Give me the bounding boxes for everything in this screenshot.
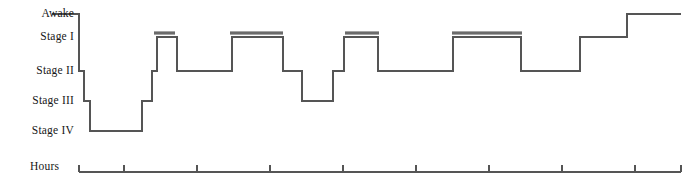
- rem-period-bars: [154, 31, 522, 34]
- y-axis-label-stage-2: Stage II: [36, 65, 74, 77]
- hypnogram-plot: [0, 0, 687, 188]
- rem-bar-3: [345, 31, 379, 34]
- rem-bar-1: [154, 31, 175, 34]
- rem-bar-2: [230, 31, 283, 34]
- y-axis-label-stage-4: Stage IV: [32, 125, 74, 137]
- hypnogram-chart: AwakeStage IStage IIStage IIIStage IV Ho…: [0, 0, 687, 188]
- rem-bar-4: [452, 31, 522, 34]
- y-axis-label-stage-1: Stage I: [40, 31, 74, 43]
- hours-axis-label: Hours: [30, 161, 59, 173]
- y-axis-label-stage-3: Stage III: [32, 95, 74, 107]
- hours-axis: [79, 165, 681, 172]
- y-axis-label-awake: Awake: [41, 8, 74, 20]
